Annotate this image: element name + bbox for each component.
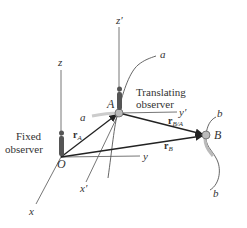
translating-observer-label-line2: observer [136,98,174,110]
translating-observer-label-line1: Translating [136,86,186,98]
relative-motion-diagram: z y x z′ y′ x′ O A B a a b b rA rB rB/A … [0,0,247,228]
x-prime-label: x′ [79,182,88,194]
y-axis [61,156,140,157]
fixed-observer-label-line1: Fixed [16,130,42,142]
x-prime-axis [86,113,119,182]
vector-rA-label: rA [73,129,82,142]
fixed-observer-figure [59,131,64,157]
x-label: x [28,205,34,217]
fixed-observer-label-line2: observer [5,143,43,155]
path-a [108,56,156,178]
translating-observer-figure [117,87,122,111]
y-prime-axis [119,112,177,113]
point-B-label: B [214,128,222,142]
z-label: z [57,56,63,68]
point-O-label: O [57,157,66,171]
vector-rBA [119,113,202,134]
particle-B [202,131,210,139]
path-b-label-bottom: b [213,187,219,199]
path-a-label-top: a [160,48,166,60]
vector-rB-label: rB [164,140,173,153]
y-prime-label: y′ [178,106,187,118]
particle-A [115,109,123,117]
path-a-label-left: a [80,111,86,123]
point-A-label: A [106,97,115,111]
y-label: y [142,150,148,162]
path-b-label-top: b [217,107,223,119]
vector-rB [61,136,202,157]
z-prime-label: z′ [115,14,123,26]
